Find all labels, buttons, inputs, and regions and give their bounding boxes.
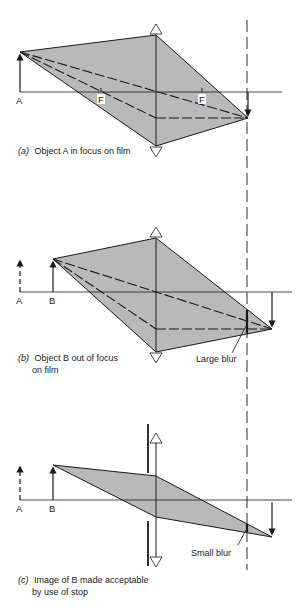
ray-cone [53,465,272,537]
caption-b-line2: on film [32,365,59,375]
lens-bottom-arrow-icon [150,147,162,157]
lens-bottom-arrow-icon [150,353,162,363]
lens-top-arrow-icon [150,433,162,443]
focal-label-right: F [199,94,205,105]
panel-c: A B Small blur (c) Image of B made accep… [16,424,292,597]
focal-label-left: F [98,94,104,105]
object-label-b: B [49,295,55,306]
panel-b: A B Large blur (b) Object B out of focus… [16,227,292,375]
lens-top-arrow-icon [150,24,162,34]
object-label-b: B [49,503,55,514]
blur-label: Large blur [196,354,237,364]
caption-a: (a) Object A in focus on film [18,146,131,156]
lens-top-arrow-icon [150,227,162,237]
ray-cone [53,238,272,352]
caption-c: (c) Image of B made acceptable [18,575,149,585]
object-label-a: A [16,295,23,306]
lens-bottom-arrow-icon [150,557,162,567]
caption-c-line2: by use of stop [32,587,88,597]
panel-a: F F A (a) Object A in focus on film [16,24,282,157]
optics-diagram: F F A (a) Object A in focus on film A B … [0,0,307,606]
object-label-a: A [16,95,23,106]
ray-cone [20,35,248,146]
blur-label: Small blur [191,548,231,558]
caption-b: (b) Object B out of focus [18,353,119,363]
object-label-a: A [16,503,23,514]
